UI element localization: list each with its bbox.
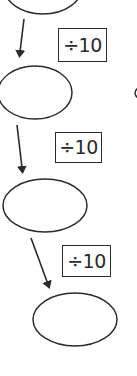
operation-label-1: ÷10 xyxy=(63,36,102,55)
operation-label-2: ÷10 xyxy=(59,138,98,157)
operation-box-2: ÷10 xyxy=(55,132,102,163)
operation-label-3: ÷10 xyxy=(67,252,106,271)
operation-box-1: ÷10 xyxy=(58,28,107,62)
answer-ellipse-4[interactable] xyxy=(33,293,117,346)
partial-ellipse-right xyxy=(135,80,137,106)
answer-ellipse-3[interactable] xyxy=(3,179,87,232)
answer-ellipse-1[interactable] xyxy=(4,0,82,14)
arrow-2 xyxy=(17,125,23,172)
operation-box-3: ÷10 xyxy=(62,245,111,277)
arrow-1 xyxy=(20,19,25,56)
answer-ellipse-2[interactable] xyxy=(0,66,72,119)
arrow-3 xyxy=(31,238,49,287)
